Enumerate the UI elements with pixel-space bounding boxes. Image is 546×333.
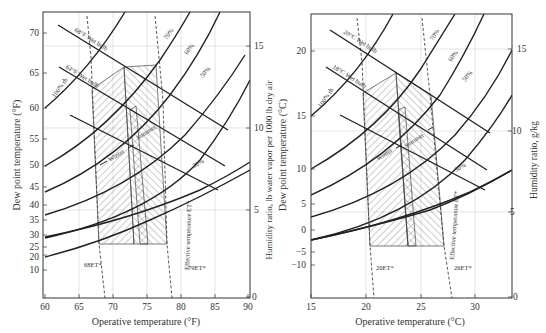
tick-label: 25 (30, 242, 40, 252)
tick-label: 80 (176, 302, 186, 312)
y-right-tick-labels-left: 15 10 5 0 (252, 41, 264, 302)
tick-label: 10 (30, 265, 40, 275)
et-label: Effective temperature ET* (183, 201, 192, 270)
y-left-tick-labels-right: 20 15 10 5 0 −5 −10 (291, 46, 306, 270)
et-high-label: 79ET* (188, 264, 206, 271)
x-ticks-left (45, 294, 248, 298)
y-right-ticks-right (508, 49, 512, 297)
tick-label: 65 (30, 68, 40, 78)
chart-right: 20 15 10 5 0 −5 −10 15 20 25 30 15 10 5 … (277, 14, 539, 328)
tick-label: 35 (30, 215, 40, 225)
psychrometric-charts: 70 65 60 55 50 45 40 35 30 25 20 10 60 6… (0, 0, 546, 333)
tick-label: −5 (296, 247, 306, 257)
y-ticks-left (43, 33, 47, 270)
tick-label: 15 (517, 44, 527, 54)
tick-label: 10 (512, 126, 522, 136)
x-axis-title-left: Operative temperature (°F) (92, 316, 200, 328)
tick-label: 10 (297, 164, 307, 174)
tick-label: 5 (254, 205, 259, 215)
y-right-axis-title-left: Humidity ratio, lb water vapor per 1000 … (264, 81, 274, 260)
tick-label: 50 (30, 160, 40, 170)
y-axis-title-right: Dew point temperature (°C) (277, 99, 289, 211)
rh-label: 30% (191, 157, 205, 169)
tick-label: −10 (291, 260, 306, 270)
rh-label: 70% (162, 26, 175, 40)
tick-label: 0 (513, 292, 518, 302)
x-tick-labels-left: 60 65 70 75 80 85 90 (40, 302, 253, 312)
tick-label: 45 (30, 182, 40, 192)
rh-label: 60% (446, 48, 459, 62)
y-right-axis-title-right: Humidity ratio, g/kg (529, 121, 539, 199)
tick-label: 55 (30, 134, 40, 144)
rh-label: 30% (453, 161, 467, 173)
tick-label: 30 (470, 302, 480, 312)
chart-left: 70 65 60 55 50 45 40 35 30 25 20 10 60 6… (11, 12, 274, 328)
x-tick-labels-right: 15 20 25 30 (306, 302, 480, 312)
et-low-label: 20ET* (376, 264, 394, 271)
x-ticks-right (311, 294, 475, 298)
y-axis-title-left: Dew point temperature (°F) (11, 100, 23, 211)
rh-label: 50% (198, 65, 211, 79)
tick-label: 70 (108, 302, 118, 312)
y-ticks-right (311, 51, 315, 265)
x-axis-title-right: Operative temperature (°C) (355, 316, 465, 328)
tick-label: 65 (74, 302, 84, 312)
y-right-tick-labels-right: 15 10 5 0 (510, 44, 527, 302)
tick-label: 15 (254, 41, 264, 51)
tick-label: 20 (30, 252, 40, 262)
tick-label: 0 (301, 225, 306, 235)
et-low-label: 68ET* (84, 261, 102, 268)
tick-label: 30 (30, 230, 40, 240)
tick-label: 0 (252, 292, 257, 302)
rh-label: 60% (182, 41, 195, 55)
tick-label: 70 (30, 28, 40, 38)
rh-label: 50% (460, 69, 473, 83)
tick-label: 20 (297, 46, 307, 56)
tick-label: 60 (40, 302, 50, 312)
et-high-label: 26ET* (454, 264, 472, 271)
tick-label: 5 (510, 207, 515, 217)
tick-label: 85 (210, 302, 220, 312)
tick-label: 40 (30, 200, 40, 210)
wetbulb-label: 18°C Wet bulb (331, 63, 367, 89)
tick-label: 15 (297, 111, 307, 121)
tick-label: 25 (416, 302, 426, 312)
figure: 70 65 60 55 50 45 40 35 30 25 20 10 60 6… (0, 0, 546, 333)
y-left-tick-labels-left: 70 65 60 55 50 45 40 35 30 25 20 10 (30, 28, 40, 275)
tick-label: 60 (30, 103, 40, 113)
tick-label: 15 (306, 302, 316, 312)
tick-label: 5 (301, 199, 306, 209)
tick-label: 20 (361, 302, 371, 312)
tick-label: 10 (254, 123, 264, 133)
tick-label: 90 (243, 302, 253, 312)
tick-label: 75 (142, 302, 152, 312)
